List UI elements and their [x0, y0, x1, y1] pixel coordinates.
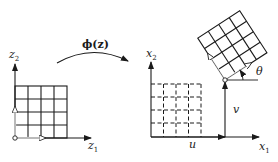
mapping-label: ϕ(z) [82, 38, 109, 51]
transformation-diagram: z2 z1 ϕ(z) [0, 0, 278, 162]
z2-label: z2 [8, 48, 19, 63]
v-label: v [233, 103, 240, 116]
right-panel: x2 x1 u v θ [146, 11, 270, 155]
z1-label: z1 [87, 139, 98, 154]
x1-label: x1 [259, 140, 270, 155]
pivot-marker [223, 78, 227, 82]
x2-label: x2 [146, 47, 157, 62]
mapping-arrow: ϕ(z) [57, 38, 128, 63]
original-grid-dashed [151, 84, 201, 137]
theta-arc [240, 70, 243, 80]
theta-label: θ [256, 65, 263, 78]
left-panel: z2 z1 [8, 48, 98, 154]
u-label: u [189, 138, 196, 151]
source-grid [15, 86, 67, 138]
origin-marker [13, 136, 17, 140]
